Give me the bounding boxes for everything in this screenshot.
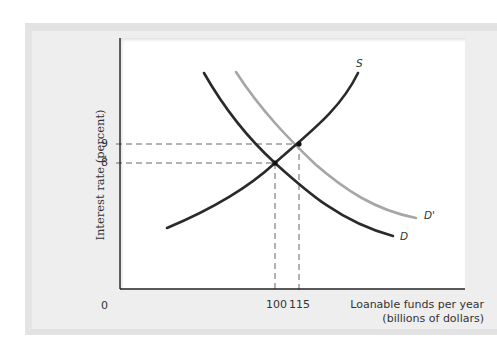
- demand-curve: [204, 73, 393, 236]
- x-axis-label: Loanable funds per year (billions of dol…: [350, 298, 484, 326]
- x-axis-label-line1: Loanable funds per year: [350, 298, 484, 312]
- supply-curve-label: S: [356, 57, 363, 69]
- demand-shifted-curve-label: D': [424, 209, 435, 221]
- x-tick-100: 100: [266, 298, 287, 311]
- y-tick-9: 9: [101, 137, 108, 150]
- equilibrium-point-initial: [272, 160, 277, 165]
- y-tick-8: 8: [101, 156, 108, 169]
- x-tick-115: 115: [289, 298, 310, 311]
- demand-curve-label: D: [400, 230, 408, 242]
- demand-curve-shifted: [236, 72, 416, 218]
- origin-label: 0: [101, 299, 108, 312]
- y-axis-label: Interest rate (percent): [93, 105, 107, 245]
- x-axis-label-line2: (billions of dollars): [350, 312, 484, 326]
- equilibrium-point-new: [296, 141, 301, 146]
